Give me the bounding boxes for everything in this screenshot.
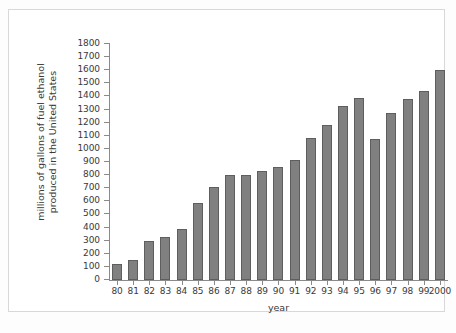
x-axis-tick: 81 — [125, 281, 141, 301]
x-axis-tick: 93 — [319, 281, 335, 301]
bar — [193, 203, 203, 280]
x-axis-tick-mark — [165, 281, 166, 285]
x-axis-tick: 87 — [222, 281, 238, 301]
y-axis-tick: 800 — [9, 169, 109, 180]
x-axis-tick: 98 — [400, 281, 416, 301]
bar — [225, 175, 235, 280]
y-axis-tick-label: 1400 — [77, 90, 100, 101]
y-axis-tick: 0 — [9, 274, 109, 285]
bar — [128, 260, 138, 280]
x-axis-tick: 96 — [367, 281, 383, 301]
y-axis-tick: 100 — [9, 261, 109, 272]
x-axis-tick-label: 93 — [321, 286, 332, 297]
y-axis-tick: 300 — [9, 235, 109, 246]
y-axis-tick-label: 1300 — [77, 104, 100, 115]
x-axis-tick: 2000 — [432, 281, 448, 301]
y-axis-tick-label: 100 — [83, 261, 100, 272]
x-axis-tick: 95 — [351, 281, 367, 301]
x-axis-tick-label: 81 — [128, 286, 139, 297]
x-axis-tick-mark — [343, 281, 344, 285]
x-axis-tick-label: 94 — [337, 286, 348, 297]
x-axis-tick: 83 — [157, 281, 173, 301]
x-axis-tick-mark — [327, 281, 328, 285]
x-axis-tick-label: 89 — [257, 286, 268, 297]
x-axis-tick-label: 2000 — [429, 286, 452, 297]
y-axis-tick-label: 700 — [83, 182, 100, 193]
y-axis-tick: 1800 — [9, 38, 109, 49]
x-axis-tick-label: 86 — [208, 286, 219, 297]
bar — [403, 99, 413, 280]
bar — [419, 91, 429, 280]
x-axis-tick-mark — [117, 281, 118, 285]
y-axis-tick: 1700 — [9, 51, 109, 62]
bar — [290, 160, 300, 280]
bar — [322, 125, 332, 280]
y-axis-tick: 1200 — [9, 117, 109, 128]
y-axis-tick-label: 1500 — [77, 77, 100, 88]
y-axis-tick-label: 900 — [83, 156, 100, 167]
x-axis-tick-label: 96 — [370, 286, 381, 297]
x-axis-tick: 84 — [174, 281, 190, 301]
x-axis-tick-label: 91 — [289, 286, 300, 297]
y-axis-title-line-2: produced in the United States — [47, 42, 59, 242]
y-axis-tick: 200 — [9, 248, 109, 259]
x-axis-tick: 88 — [238, 281, 254, 301]
chart-figure: 0100200300400500600700800900100011001200… — [0, 0, 456, 333]
x-axis-tick-mark — [391, 281, 392, 285]
bar — [209, 187, 219, 280]
y-axis-tick-label: 500 — [83, 208, 100, 219]
y-axis-title-line-1: millions of gallons of fuel ethanol — [35, 42, 47, 242]
y-axis-tick-label: 600 — [83, 195, 100, 206]
chart-frame: 0100200300400500600700800900100011001200… — [8, 9, 445, 312]
y-axis-tick: 700 — [9, 182, 109, 193]
y-axis-tick-label: 1100 — [77, 130, 100, 141]
bar — [370, 139, 380, 280]
y-axis-tick: 1400 — [9, 90, 109, 101]
x-axis-tick: 92 — [303, 281, 319, 301]
x-axis-tick-label: 92 — [305, 286, 316, 297]
x-axis-tick-mark — [230, 281, 231, 285]
x-axis-tick: 90 — [270, 281, 286, 301]
x-axis-tick-mark — [262, 281, 263, 285]
x-axis-tick-mark — [311, 281, 312, 285]
bar — [177, 229, 187, 280]
bar — [386, 113, 396, 280]
x-axis-tick-mark — [133, 281, 134, 285]
bar — [273, 167, 283, 280]
y-axis-tick-label: 1700 — [77, 51, 100, 62]
x-axis-tick-label: 83 — [160, 286, 171, 297]
y-axis-tick-label: 800 — [83, 169, 100, 180]
x-axis-tick: 86 — [206, 281, 222, 301]
bar — [144, 241, 154, 280]
x-axis-tick-mark — [246, 281, 247, 285]
y-axis-tick: 1600 — [9, 64, 109, 75]
x-axis-tick-mark — [424, 281, 425, 285]
x-axis-tick-mark — [359, 281, 360, 285]
y-axis-tick: 1500 — [9, 77, 109, 88]
x-axis-tick-label: 82 — [144, 286, 155, 297]
x-axis-tick: 94 — [335, 281, 351, 301]
x-axis-tick-label: 84 — [176, 286, 187, 297]
bar — [257, 171, 267, 280]
y-axis-tick-label: 300 — [83, 235, 100, 246]
y-axis-tick: 500 — [9, 208, 109, 219]
y-axis-tick: 400 — [9, 222, 109, 233]
x-axis-tick: 97 — [383, 281, 399, 301]
x-axis-tick-mark — [375, 281, 376, 285]
x-axis-tick-label: 85 — [192, 286, 203, 297]
x-axis-tick-label: 88 — [241, 286, 252, 297]
x-axis-tick-mark — [295, 281, 296, 285]
bar — [241, 175, 251, 280]
x-axis-tick-label: 87 — [224, 286, 235, 297]
y-axis-tick: 1100 — [9, 130, 109, 141]
y-axis-tick-label: 1200 — [77, 117, 100, 128]
y-axis-title: millions of gallons of fuel ethanol prod… — [35, 42, 59, 242]
bar — [306, 138, 316, 280]
x-axis-tick: 89 — [254, 281, 270, 301]
y-axis-tick: 1300 — [9, 104, 109, 115]
bar — [112, 264, 122, 280]
y-axis-tick-label: 1000 — [77, 143, 100, 154]
x-axis-tick-label: 90 — [273, 286, 284, 297]
x-axis-title: year — [109, 302, 448, 313]
x-axis-tick: 82 — [141, 281, 157, 301]
